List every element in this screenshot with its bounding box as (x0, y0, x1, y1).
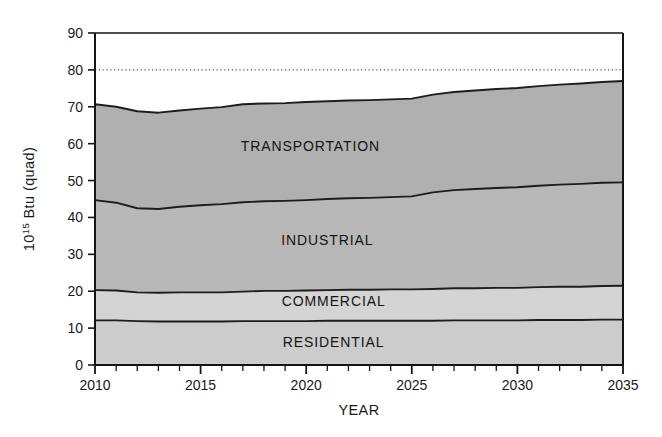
y-tick-label: 90 (67, 25, 83, 41)
x-tick-label: 2030 (502, 377, 533, 393)
x-tick-label: 2025 (396, 377, 427, 393)
band-label-commercial: COMMERCIAL (282, 293, 386, 309)
y-tick-label: 10 (67, 320, 83, 336)
y-tick-label: 0 (75, 357, 83, 373)
band-label-residential: RESIDENTIAL (283, 334, 385, 350)
y-tick-label: 40 (67, 209, 83, 225)
stacked-area-chart: 0102030405060708090 20102015202020252030… (0, 0, 662, 437)
x-tick-label: 2015 (185, 377, 216, 393)
x-axis-ticks-group: 201020152020202520302035 (79, 365, 638, 393)
y-tick-label: 20 (67, 283, 83, 299)
x-tick-label: 2020 (291, 377, 322, 393)
y-tick-label: 30 (67, 246, 83, 262)
x-axis-title: YEAR (338, 402, 379, 418)
y-tick-label: 60 (67, 136, 83, 152)
x-tick-label: 2035 (607, 377, 638, 393)
y-tick-label: 50 (67, 173, 83, 189)
y-tick-label: 70 (67, 99, 83, 115)
y-axis-title: 1015 Btu (quad) (20, 147, 37, 251)
y-axis-ticks-group: 0102030405060708090 (67, 25, 95, 373)
band-label-industrial: INDUSTRIAL (281, 232, 373, 248)
chart-figure: 0102030405060708090 20102015202020252030… (0, 0, 662, 437)
band-label-transportation: TRANSPORTATION (241, 138, 380, 154)
y-tick-label: 80 (67, 62, 83, 78)
x-tick-label: 2010 (79, 377, 110, 393)
